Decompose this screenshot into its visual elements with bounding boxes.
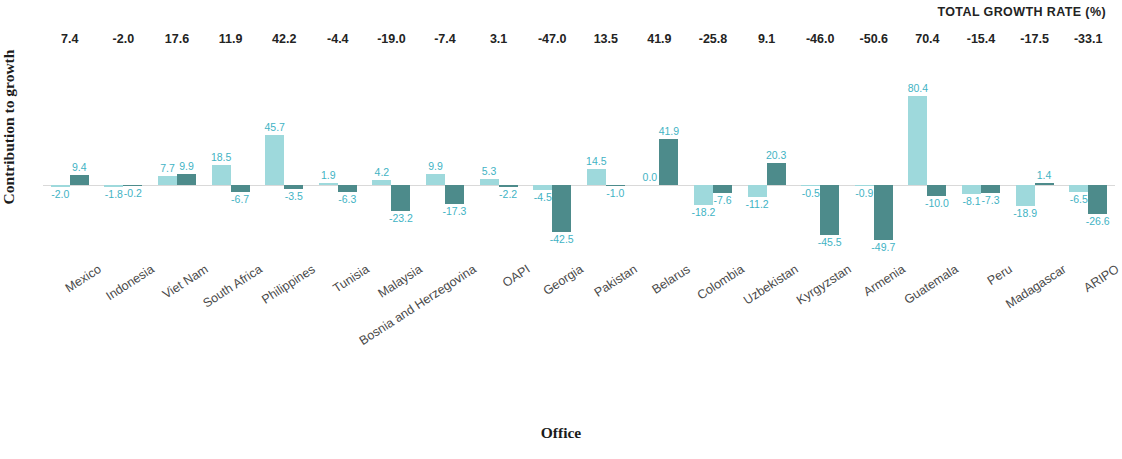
bar-value-label: -3.5 <box>278 190 309 202</box>
bar-group: 7.4-2.09.4 <box>43 26 97 258</box>
bar-pair: 7.79.9 <box>150 26 204 258</box>
bar-value-label: 80.4 <box>902 82 933 94</box>
bar-dark <box>284 185 303 189</box>
bar-group: -2.0-1.8-0.2 <box>97 26 151 258</box>
bar-group: 17.67.79.9 <box>150 26 204 258</box>
bar-value-label: 4.2 <box>366 166 397 178</box>
x-tick-label-text: Tunisia <box>330 262 371 295</box>
bar-group: -46.0-0.5-45.5 <box>793 26 847 258</box>
bar-light <box>372 180 391 185</box>
x-axis-tick-labels: MexicoIndonesiaViet NamSouth AfricaPhili… <box>43 262 1115 382</box>
bar-value-label: 18.5 <box>206 151 237 163</box>
bar-dark <box>499 185 518 187</box>
x-tick-label-text: ARIPO <box>1082 262 1122 295</box>
bar-light <box>480 179 499 185</box>
bar-pair: -8.1-7.3 <box>954 26 1008 258</box>
bar-dark <box>606 185 625 186</box>
bar-pair: -1.8-0.2 <box>97 26 151 258</box>
bar-value-label: 9.4 <box>64 161 95 173</box>
bar-light <box>1069 185 1088 192</box>
bar-dark <box>713 185 732 193</box>
x-tick-label-text: Armenia <box>861 262 908 299</box>
bar-dark <box>767 163 786 185</box>
bar-pair: 80.4-10.0 <box>901 26 955 258</box>
bar-dark <box>445 185 464 204</box>
x-tick-label-text: Mexico <box>63 262 104 295</box>
bar-pair: 9.9-17.3 <box>418 26 472 258</box>
bar-light <box>1016 185 1035 206</box>
bar-value-label: -23.2 <box>385 212 416 224</box>
bar-group: 3.15.3-2.2 <box>472 26 526 258</box>
bar-group: -7.49.9-17.3 <box>418 26 472 258</box>
bar-value-label: -2.2 <box>493 188 524 200</box>
bar-group: -50.6-0.9-49.7 <box>847 26 901 258</box>
bar-group: 9.1-11.220.3 <box>740 26 794 258</box>
bar-dark <box>820 185 839 235</box>
x-tick-label-text: Colombia <box>695 262 747 303</box>
bar-value-label: -7.6 <box>707 194 738 206</box>
bar-group: 41.90.041.9 <box>633 26 687 258</box>
bar-dark <box>338 185 357 192</box>
bar-pair: -2.09.4 <box>43 26 97 258</box>
bar-pair: 0.041.9 <box>633 26 687 258</box>
bar-dark <box>981 185 1000 193</box>
bar-dark <box>231 185 250 192</box>
bar-light <box>265 135 284 185</box>
bar-value-label: 41.9 <box>653 125 684 137</box>
bar-value-label: 9.9 <box>171 160 202 172</box>
bar-dark <box>1035 183 1054 185</box>
bar-value-label: -7.3 <box>975 194 1006 206</box>
bar-light <box>533 185 552 190</box>
bar-dark <box>1088 185 1107 214</box>
bar-pair: 4.2-23.2 <box>365 26 419 258</box>
bar-group: -25.8-18.2-7.6 <box>686 26 740 258</box>
bar-light <box>855 185 874 186</box>
bar-light <box>962 185 981 194</box>
bar-value-label: 1.4 <box>1029 169 1060 181</box>
bar-chart: TOTAL GROWTH RATE (%) Contribution to gr… <box>0 0 1122 459</box>
bar-value-label: -10.0 <box>921 197 952 209</box>
bar-value-label: -11.2 <box>742 198 773 210</box>
bar-dark <box>659 139 678 185</box>
bar-group: 70.480.4-10.0 <box>901 26 955 258</box>
bar-light <box>51 185 70 187</box>
x-tick-label-text: Pakistan <box>592 262 640 300</box>
bar-value-label: 5.3 <box>474 165 505 177</box>
x-tick-label-text: OAPI <box>500 262 533 290</box>
bar-dark <box>391 185 410 211</box>
plot-area: 7.4-2.09.4-2.0-1.8-0.217.67.79.911.918.5… <box>43 26 1115 258</box>
bar-pair: -11.220.3 <box>740 26 794 258</box>
bar-light <box>587 169 606 185</box>
bar-group: 13.514.5-1.0 <box>579 26 633 258</box>
total-growth-rate-title: TOTAL GROWTH RATE (%) <box>937 5 1106 19</box>
x-tick-label-text: Belarus <box>650 262 693 297</box>
y-axis-title: Contribution to growth <box>0 0 22 262</box>
bar-light <box>319 183 338 185</box>
bar-group: 11.918.5-6.7 <box>204 26 258 258</box>
bar-group: -17.5-18.91.4 <box>1008 26 1062 258</box>
bar-dark <box>123 185 142 186</box>
bar-pair: 1.9-6.3 <box>311 26 365 258</box>
bar-value-label: 9.9 <box>420 160 451 172</box>
bar-pair: 5.3-2.2 <box>472 26 526 258</box>
x-tick-label-text: Georgia <box>541 262 586 298</box>
bar-value-label: -18.9 <box>1010 207 1041 219</box>
x-axis-title: Office <box>0 424 1122 442</box>
bar-group: -19.04.2-23.2 <box>365 26 419 258</box>
bar-value-label: -17.3 <box>439 205 470 217</box>
bar-group: 42.245.7-3.5 <box>257 26 311 258</box>
bar-light <box>426 174 445 185</box>
bar-pair: 14.5-1.0 <box>579 26 633 258</box>
bar-light <box>801 185 820 186</box>
bar-light <box>748 185 767 197</box>
bar-value-label: -6.7 <box>225 193 256 205</box>
bar-dark <box>177 174 196 185</box>
bar-value-label: 45.7 <box>259 121 290 133</box>
bar-pair: -18.2-7.6 <box>686 26 740 258</box>
bar-value-label: -18.2 <box>688 206 719 218</box>
bar-light <box>908 96 927 185</box>
bar-light <box>212 165 231 185</box>
bar-pair: 45.7-3.5 <box>257 26 311 258</box>
x-tick-label: ARIPO <box>1114 241 1122 274</box>
bar-group: -33.1-6.5-26.6 <box>1061 26 1115 258</box>
